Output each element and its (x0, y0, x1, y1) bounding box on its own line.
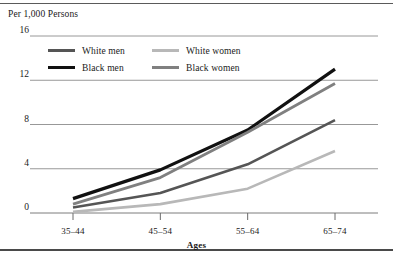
series-line (73, 120, 335, 207)
legend-label: Black men (82, 63, 124, 73)
legend-item-black-men: Black men (48, 63, 152, 73)
legend-label: White men (82, 46, 125, 56)
legend-swatch-icon (48, 66, 75, 70)
legend-row: Black men Black women (48, 59, 298, 76)
legend-row: White men White women (48, 42, 298, 59)
legend-label: White women (186, 46, 241, 56)
x-tick-label: 65–74 (307, 226, 363, 236)
legend-item-black-women: Black women (152, 63, 240, 73)
x-axis-label: Ages (0, 240, 393, 250)
chart-legend: White men White women Black men Black wo… (48, 42, 298, 76)
x-axis-ticks (73, 213, 335, 220)
legend-label: Black women (186, 63, 240, 73)
legend-swatch-icon (152, 66, 179, 69)
x-tick-label: 55–64 (220, 226, 276, 236)
x-tick-label: 35–44 (45, 226, 101, 236)
series-lines (73, 69, 335, 212)
legend-item-white-men: White men (48, 46, 152, 56)
y-tick-label: 12 (7, 69, 29, 79)
legend-swatch-icon (48, 49, 75, 52)
x-tick-label: 45–54 (132, 226, 188, 236)
y-tick-label: 0 (7, 202, 29, 212)
chart-figure: Per 1,000 Persons 0481216 35–4445–5455–6… (0, 0, 393, 266)
series-line (73, 151, 335, 212)
y-tick-label: 8 (7, 114, 29, 124)
y-tick-label: 4 (7, 158, 29, 168)
legend-item-white-women: White women (152, 46, 241, 56)
legend-swatch-icon (152, 49, 179, 52)
y-tick-label: 16 (7, 25, 29, 35)
